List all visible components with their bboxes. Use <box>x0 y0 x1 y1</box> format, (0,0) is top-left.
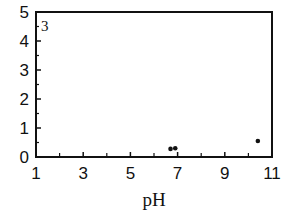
data-point <box>256 139 261 144</box>
x-tick-label: 11 <box>263 164 281 183</box>
plot-frame <box>36 12 272 157</box>
x-tick-label: 3 <box>78 164 87 183</box>
y-tick-label: 4 <box>20 32 29 51</box>
x-tick-label: 5 <box>126 164 135 183</box>
y-tick-label: 5 <box>20 3 29 22</box>
x-axis-title: pH <box>142 189 166 210</box>
x-tick-label: 7 <box>173 164 182 183</box>
x-tick-label: 1 <box>31 164 40 183</box>
x-tick-label: 9 <box>220 164 229 183</box>
data-point <box>173 146 178 151</box>
y-tick-label: 0 <box>20 148 29 167</box>
y-tick-label: 1 <box>20 119 29 138</box>
panel-label: 3 <box>41 18 49 34</box>
axes-box <box>36 12 272 157</box>
data-point <box>168 147 173 152</box>
y-tick-label: 3 <box>20 61 29 80</box>
y-tick-label: 2 <box>20 90 29 109</box>
y-axis: 012345 <box>20 3 41 167</box>
scatter-chart: 012345 1357911 3 pH <box>0 0 283 213</box>
data-points <box>168 139 260 151</box>
